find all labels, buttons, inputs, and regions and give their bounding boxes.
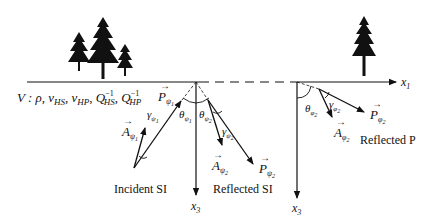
svg-text:Pψ1: Pψ1 (157, 89, 174, 107)
svg-text:γφ2: γφ2 (329, 98, 340, 114)
svg-text:θψ1: θψ1 (179, 108, 192, 124)
svg-text:θφ2: θφ2 (305, 102, 317, 118)
svg-text:θψ2: θψ2 (199, 108, 212, 124)
tree-group-left-icon (68, 17, 133, 79)
svg-text:Aφ2: Aφ2 (333, 125, 349, 143)
incident-si-caption: Incident SI (114, 182, 167, 196)
x3-right-axis-label: x3 (291, 201, 301, 217)
medium-properties-label: V : ρ, vHS, vHP, Q−1HS, Q−1HP (17, 89, 142, 107)
reflected-p-caption: Reflected P (360, 133, 416, 147)
reflected-si-labels: θψ2 γψ2 → Aψ2 → Pψ2 Reflected SI (199, 108, 275, 196)
svg-text:Aψ1: Aψ1 (121, 124, 138, 142)
reflection-diagram: V : ρ, vHS, vHP, Q−1HS, Q−1HP → Pψ1 → Aψ… (0, 0, 433, 220)
reflected-p-labels: θφ2 γφ2 → Aφ2 → Pφ2 Reflected P (305, 98, 416, 147)
x1-axis-label: x1 (400, 75, 410, 91)
svg-text:Aψ2: Aψ2 (211, 158, 228, 176)
reflected-p-vectors (319, 89, 364, 117)
construction-dashes (182, 82, 319, 100)
svg-text:Pφ2: Pφ2 (369, 107, 385, 125)
tree-right-icon (352, 16, 376, 76)
svg-text:Pψ2: Pψ2 (258, 161, 275, 179)
x3-left-axis-label: x3 (190, 199, 200, 215)
incident-vectors (134, 101, 181, 168)
reflected-si-caption: Reflected SI (213, 182, 273, 196)
svg-text:γψ1: γψ1 (147, 108, 159, 124)
